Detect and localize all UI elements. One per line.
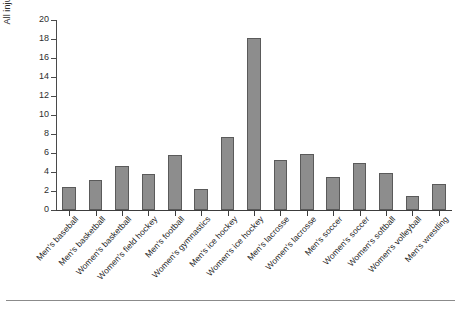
bars-layer: [56, 20, 452, 210]
y-tick-mark: [51, 210, 56, 211]
bar: [89, 180, 103, 210]
x-tick-mark: [122, 211, 123, 216]
y-axis-title: All injuries (%): [2, 0, 12, 55]
y-tick-label: 12: [28, 91, 49, 100]
y-tick-label: 14: [28, 72, 49, 81]
x-tick-mark: [254, 211, 255, 216]
bar: [406, 196, 420, 210]
x-tick-mark: [228, 211, 229, 216]
y-tick-label: 8: [28, 129, 49, 138]
injury-bar-chart-figure: All injuries (%) 02468101214161820 Men's…: [0, 0, 461, 311]
y-tick-label: 20: [28, 15, 49, 24]
bar: [274, 160, 288, 210]
bar: [432, 184, 446, 210]
y-tick-label: 4: [28, 167, 49, 176]
bar: [326, 177, 340, 210]
x-tick-mark: [360, 211, 361, 216]
y-tick-label: 2: [28, 186, 49, 195]
bar: [62, 187, 76, 210]
bar: [168, 155, 182, 210]
x-tick-mark: [386, 211, 387, 216]
bar: [353, 163, 367, 210]
x-tick-mark: [439, 211, 440, 216]
y-tick-label: 10: [28, 110, 49, 119]
x-tick-mark: [175, 211, 176, 216]
bar: [142, 174, 156, 210]
bar: [115, 166, 129, 210]
y-tick-label: 18: [28, 34, 49, 43]
bar: [247, 38, 261, 210]
bar: [300, 154, 314, 210]
y-tick-label: 16: [28, 53, 49, 62]
y-tick-label: 6: [28, 148, 49, 157]
bar: [379, 173, 393, 210]
bar: [221, 137, 235, 210]
y-tick-label: 0: [28, 205, 49, 214]
bottom-divider-rule: [6, 300, 455, 301]
bar: [194, 189, 208, 210]
x-tick-mark: [307, 211, 308, 216]
x-tick-mark: [96, 211, 97, 216]
